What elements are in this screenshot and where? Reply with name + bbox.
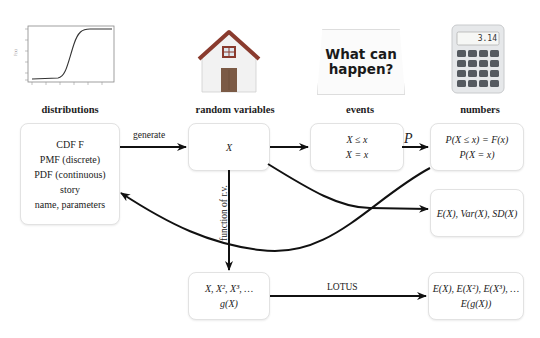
function-of-rv-label: function of r.v. [219, 173, 229, 253]
arrows-layer [0, 0, 540, 338]
generate-label: generate [133, 130, 165, 140]
probability-label: P [404, 131, 413, 147]
cdf-back-to-distribution-arrow [121, 168, 430, 251]
rv-to-moments-arrow [268, 164, 428, 209]
lotus-label: LOTUS [327, 282, 358, 292]
